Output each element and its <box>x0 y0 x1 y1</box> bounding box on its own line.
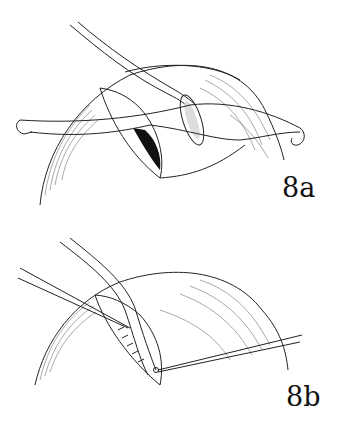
panel-8a: 8a <box>0 0 339 210</box>
panel-8b: 8b <box>0 210 339 421</box>
panel-label-8a: 8a <box>282 172 315 203</box>
panel-label-8b: 8b <box>286 381 320 412</box>
